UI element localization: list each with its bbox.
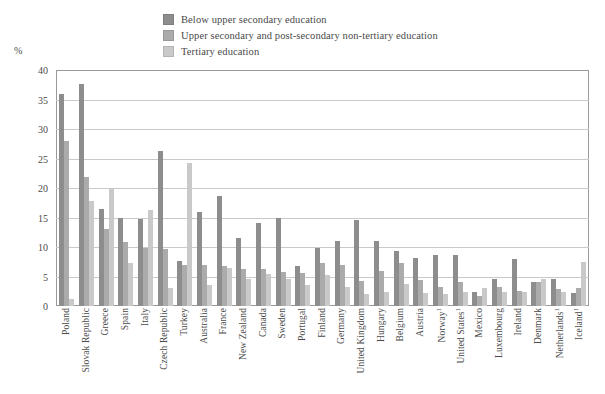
x-axis-category-label: Belgium	[397, 308, 407, 341]
bar	[187, 163, 192, 306]
x-axis-label-cell: United States1	[450, 308, 470, 394]
x-axis-category-label: Norway1	[434, 308, 448, 343]
bar-group	[234, 70, 254, 306]
x-axis-category-label: Czech Republic	[160, 308, 170, 370]
bar	[443, 294, 448, 306]
x-axis-category-label: Sweden	[278, 308, 288, 339]
x-axis-label-cell: New Zealand	[234, 308, 254, 394]
x-axis-category-label: France	[219, 308, 229, 334]
bar	[325, 275, 330, 306]
bar	[227, 268, 232, 306]
x-axis-category-label: Portugal	[298, 308, 308, 341]
x-axis-label-cell: Iceland1	[568, 308, 588, 394]
bar-group	[96, 70, 116, 306]
bar-group	[411, 70, 431, 306]
legend-item-label: Below upper secondary education	[181, 14, 327, 25]
bar-group	[195, 70, 215, 306]
legend-swatch-icon	[163, 14, 174, 25]
x-axis-label-cell: Portugal	[293, 308, 313, 394]
bar	[581, 262, 586, 306]
x-axis-category-label: Mexico	[475, 308, 485, 338]
x-axis-label-cell: Denmark	[529, 308, 549, 394]
bar	[286, 279, 291, 306]
x-axis-category-label: Spain	[121, 308, 131, 330]
x-axis-label-cell: Spain	[116, 308, 136, 394]
bar-group	[293, 70, 313, 306]
x-axis-category-labels: PolandSlovak RepublicGreeceSpainItalyCze…	[56, 308, 589, 394]
x-axis-category-label: Denmark	[534, 308, 544, 344]
x-axis-category-label: Poland	[62, 308, 72, 335]
x-axis-category-label: Germany	[337, 308, 347, 344]
bar-group	[332, 70, 352, 306]
bar	[364, 294, 369, 306]
x-axis-label-cell: Slovak Republic	[77, 308, 97, 394]
plot-area	[56, 70, 589, 306]
y-axis-tick-label: 30	[26, 124, 48, 135]
bar	[64, 141, 69, 306]
bar-group	[214, 70, 234, 306]
x-axis-label-cell: Luxembourg	[490, 308, 510, 394]
legend-item-label: Upper secondary and post-secondary non-t…	[181, 30, 438, 41]
y-axis-tick-label: 5	[26, 271, 48, 282]
y-axis-tick-labels: 0510152025303540	[22, 70, 48, 306]
bar	[541, 279, 546, 306]
bar-group	[57, 70, 77, 306]
bar-group	[568, 70, 588, 306]
y-axis-tick-label: 25	[26, 153, 48, 164]
x-axis-label-cell: Canada	[254, 308, 274, 394]
x-axis-label-cell: France	[214, 308, 234, 394]
x-axis-label-cell: Czech Republic	[155, 308, 175, 394]
chart-legend: Below upper secondary education Upper se…	[163, 12, 438, 59]
bar-group	[509, 70, 529, 306]
bar-group	[431, 70, 451, 306]
bar-group	[450, 70, 470, 306]
x-axis-label-cell: Germany	[332, 308, 352, 394]
bar-group	[136, 70, 156, 306]
bar-group	[352, 70, 372, 306]
x-axis-category-label: New Zealand	[239, 308, 249, 360]
x-axis-category-label: Greece	[101, 308, 111, 336]
x-axis-label-cell: Mexico	[470, 308, 490, 394]
x-axis-label-cell: Austria	[411, 308, 431, 394]
x-axis-category-label: Slovak Republic	[82, 308, 92, 373]
bar-group	[155, 70, 175, 306]
x-axis-label-cell: Ireland	[509, 308, 529, 394]
bar-group	[273, 70, 293, 306]
x-axis-category-label: Ireland	[515, 308, 525, 336]
x-axis-category-label: Finland	[318, 308, 328, 338]
legend-item-tertiary: Tertiary education	[163, 44, 438, 59]
x-axis-category-label: United States1	[453, 308, 467, 364]
x-axis-category-label: Canada	[259, 308, 269, 337]
y-axis-tick-label: 10	[26, 242, 48, 253]
bar-groups	[56, 70, 589, 306]
bar	[168, 288, 173, 306]
x-axis-label-cell: Greece	[96, 308, 116, 394]
x-axis-label-cell: Sweden	[273, 308, 293, 394]
x-axis-category-label: Austria	[416, 308, 426, 337]
bar	[404, 284, 409, 306]
x-axis-category-label: Australia	[200, 308, 210, 344]
legend-item-upper-secondary: Upper secondary and post-secondary non-t…	[163, 28, 438, 43]
x-axis-label-cell: Turkey	[175, 308, 195, 394]
x-axis-label-cell: Italy	[136, 308, 156, 394]
bar-group	[470, 70, 490, 306]
bar	[423, 293, 428, 306]
bar	[109, 188, 114, 306]
bar-group	[116, 70, 136, 306]
bar-group	[254, 70, 274, 306]
x-axis-label-cell: United Kingdom	[352, 308, 372, 394]
bar	[384, 292, 389, 306]
y-axis-tick-label: 40	[26, 65, 48, 76]
bar	[207, 285, 212, 306]
y-axis-tick-label: 15	[26, 212, 48, 223]
x-axis-category-label: Netherlands1	[552, 308, 566, 358]
bar-group	[372, 70, 392, 306]
y-axis-tick-label: 35	[26, 94, 48, 105]
bar	[561, 292, 566, 306]
legend-item-label: Tertiary education	[181, 46, 259, 57]
bar	[246, 279, 251, 306]
y-axis-tick-label: 0	[26, 301, 48, 312]
bar	[482, 288, 487, 306]
bar-group	[549, 70, 569, 306]
bar-group	[391, 70, 411, 306]
